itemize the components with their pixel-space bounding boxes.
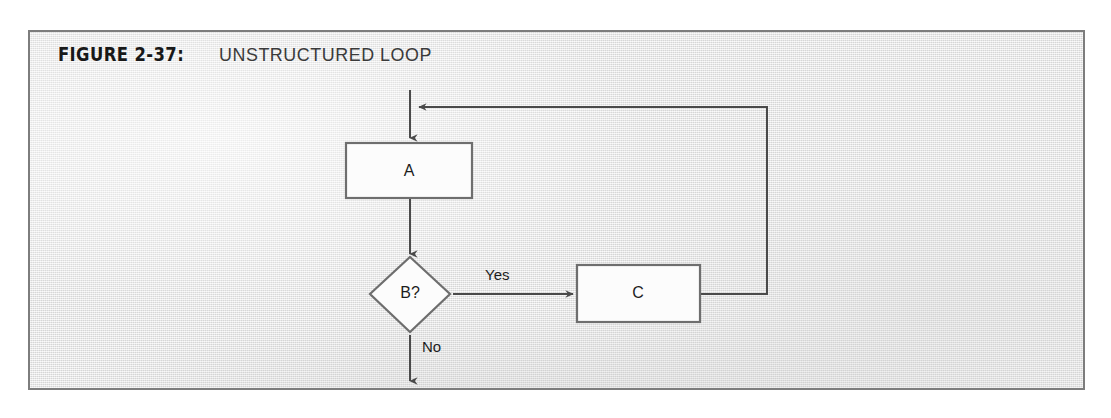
node-c-label: C xyxy=(632,284,644,301)
flowchart-diagram: A B? Yes No C xyxy=(30,32,1085,390)
edge-label-no: No xyxy=(422,338,441,355)
edge-label-yes: Yes xyxy=(485,266,509,283)
node-b-label: B? xyxy=(400,284,420,301)
figure-frame: FIGURE 2-37: UNSTRUCTURED LOOP A B? xyxy=(28,30,1085,390)
node-a-label: A xyxy=(404,162,415,179)
